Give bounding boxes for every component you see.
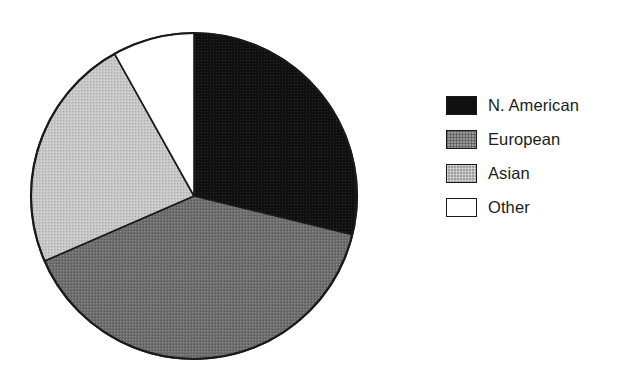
chart-legend: N. American European Asian Other [446, 88, 622, 224]
legend-label-other: Other [488, 199, 530, 216]
legend-item-n-american: N. American [446, 88, 622, 122]
legend-swatch-other [446, 198, 477, 217]
legend-item-european: European [446, 122, 622, 156]
legend-item-asian: Asian [446, 156, 622, 190]
legend-swatch-asian [446, 164, 477, 183]
legend-label-european: European [488, 131, 560, 148]
legend-item-other: Other [446, 190, 622, 224]
legend-label-n-american: N. American [488, 97, 579, 114]
pie-chart-plot-area [0, 0, 390, 377]
legend-label-asian: Asian [488, 165, 530, 182]
pie-chart-figure: N. American European Asian Other [0, 0, 628, 377]
pie-chart-svg [0, 0, 390, 377]
legend-swatch-european [446, 130, 477, 149]
legend-swatch-n-american [446, 96, 477, 115]
